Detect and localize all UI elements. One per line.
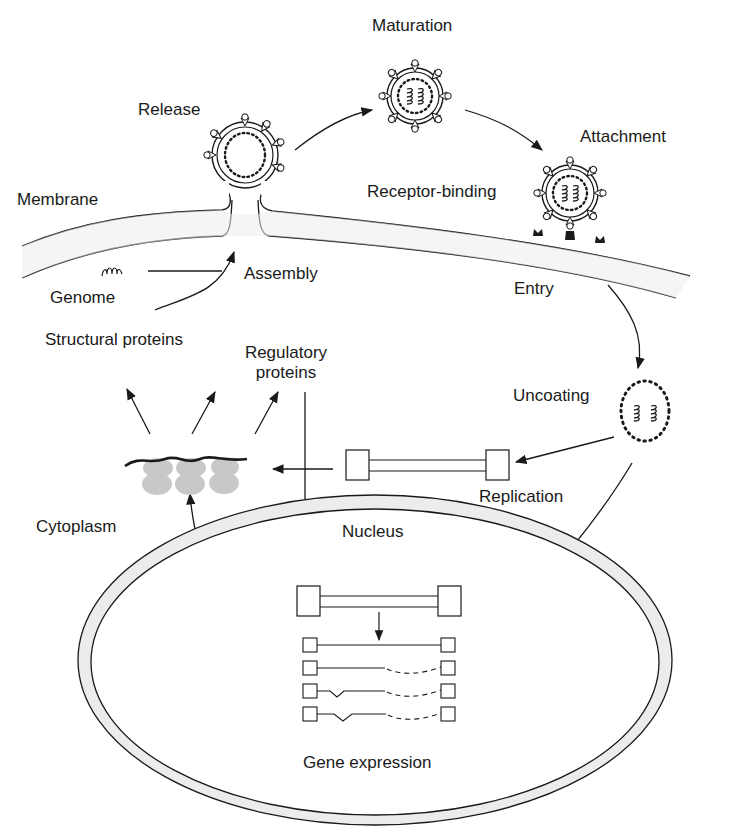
release-to-maturation-arrow <box>295 110 372 150</box>
receptor-icons <box>533 229 605 243</box>
label-structural-proteins: Structural proteins <box>45 330 183 350</box>
genome-icon <box>102 268 122 276</box>
uncoated-genome-icon <box>621 381 669 441</box>
label-genome: Genome <box>50 288 115 308</box>
nucleus-envelope <box>78 495 672 825</box>
budding-virion-icon <box>204 114 285 195</box>
label-gene-expression: Gene expression <box>303 753 432 773</box>
label-uncoating: Uncoating <box>513 386 590 406</box>
entry-to-uncoating-arrow <box>608 285 640 368</box>
label-release: Release <box>138 100 200 120</box>
label-regulatory-proteins: Regulatory proteins <box>236 343 336 383</box>
maturation-to-attachment-arrow <box>465 110 542 150</box>
label-entry: Entry <box>514 279 554 299</box>
uncoating-to-replication-arrow <box>516 437 614 462</box>
replication-genome-icon <box>346 450 509 480</box>
label-receptor-binding: Receptor-binding <box>367 182 496 202</box>
label-nucleus: Nucleus <box>342 522 403 542</box>
label-replication: Replication <box>479 487 563 507</box>
label-cytoplasm: Cytoplasm <box>36 517 116 537</box>
ribosome-to-structural-2-arrow <box>192 392 215 434</box>
label-attachment: Attachment <box>580 127 666 147</box>
diagram-canvas <box>0 0 750 834</box>
ribosome-to-regulatory-arrow <box>255 392 278 434</box>
label-regulatory-line1: Regulatory <box>236 343 336 363</box>
label-membrane: Membrane <box>17 190 98 210</box>
viral-life-cycle-diagram: Maturation Release Attachment Membrane R… <box>0 0 750 834</box>
ribosome-to-structural-1-arrow <box>127 389 150 434</box>
attaching-virion-icon <box>534 157 606 229</box>
label-maturation: Maturation <box>372 16 452 36</box>
mature-virion-icon <box>379 60 451 132</box>
proteins-to-assembly-arrow <box>155 252 234 310</box>
label-assembly: Assembly <box>244 264 318 284</box>
label-regulatory-line2: proteins <box>236 363 336 383</box>
ribosome-icon <box>125 457 247 495</box>
